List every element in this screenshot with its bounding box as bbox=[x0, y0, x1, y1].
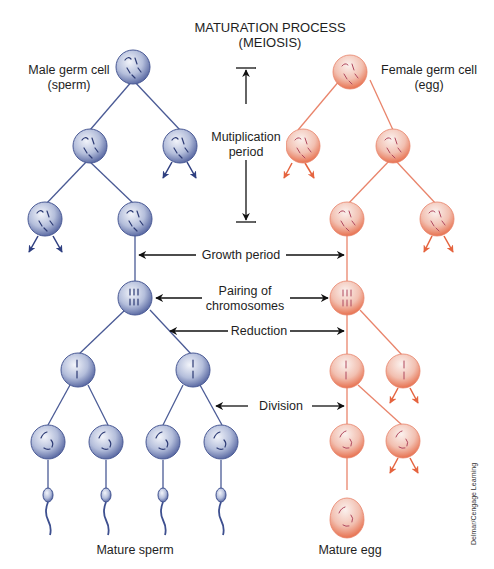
mature-egg-label: Mature egg bbox=[310, 543, 390, 558]
mature-egg bbox=[330, 498, 364, 538]
female-chromosomes bbox=[295, 64, 445, 527]
female-germ-cell-label: Female germ cell (egg) bbox=[374, 63, 484, 93]
diagram-title: MATURATION PROCESS (MEIOSIS) bbox=[180, 20, 360, 50]
title-line-1: MATURATION PROCESS bbox=[180, 20, 360, 35]
male-germ-cell-label: Male germ cell (sperm) bbox=[24, 63, 114, 93]
title-line-2: (MEIOSIS) bbox=[180, 35, 360, 50]
female-label-line-2: (egg) bbox=[374, 78, 484, 93]
multiplication-line-1: Mutiplication bbox=[206, 130, 286, 145]
female-pairing-cell bbox=[330, 281, 364, 315]
male-germ-cell bbox=[116, 50, 150, 84]
female-label-line-1: Female germ cell bbox=[374, 63, 484, 78]
division-label: Division bbox=[250, 399, 312, 414]
mature-sperm-group bbox=[43, 488, 226, 535]
sperm-3 bbox=[158, 488, 168, 535]
pairing-line-2: chromosomes bbox=[200, 299, 290, 314]
reduction-label: Reduction bbox=[228, 324, 290, 339]
sperm-4 bbox=[216, 488, 226, 535]
growth-period-label: Growth period bbox=[196, 248, 286, 263]
male-label-line-1: Male germ cell bbox=[24, 63, 114, 78]
multiplication-line-2: period bbox=[206, 145, 286, 160]
female-germ-cell bbox=[333, 55, 367, 89]
male-label-line-2: (sperm) bbox=[24, 78, 114, 93]
mature-sperm-label: Mature sperm bbox=[85, 543, 185, 558]
male-pairing-cell bbox=[118, 281, 152, 315]
multiplication-period-label: Mutiplication period bbox=[206, 130, 286, 160]
female-cells bbox=[286, 55, 454, 538]
sperm-2 bbox=[101, 488, 111, 535]
credit-text: Delmar/Cengage Learning bbox=[470, 463, 477, 545]
pairing-of-chromosomes-label: Pairing of chromosomes bbox=[200, 284, 290, 314]
pairing-line-1: Pairing of bbox=[200, 284, 290, 299]
sperm-1 bbox=[43, 488, 53, 535]
